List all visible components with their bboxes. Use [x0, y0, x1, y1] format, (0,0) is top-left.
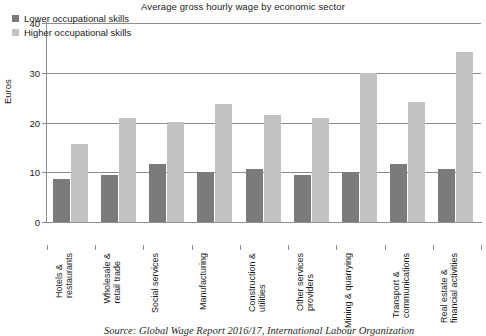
bar: [119, 118, 136, 222]
x-tick-mark: [385, 245, 386, 250]
x-tick-mark: [47, 245, 48, 250]
legend-label-lower: Lower occupational skills: [24, 13, 129, 24]
bar: [390, 164, 407, 222]
x-tick-label: Other servicesproviders: [295, 253, 315, 311]
x-tick-mark: [288, 245, 289, 250]
x-axis-line: [46, 222, 482, 223]
bar: [167, 122, 184, 222]
x-tick-mark: [192, 245, 193, 250]
x-tick-mark: [240, 245, 241, 250]
bar: [53, 179, 70, 222]
bar: [294, 175, 311, 222]
chart-figure: Average gross hourly wage by economic se…: [0, 0, 486, 336]
gridline: [47, 73, 481, 74]
bar: [71, 144, 88, 222]
bar: [149, 164, 166, 222]
bar: [197, 172, 214, 222]
x-tick-label: Real estate &financial activities: [439, 253, 459, 323]
bar: [264, 115, 281, 222]
x-tick-mark: [95, 245, 96, 250]
y-tick-mark: [42, 123, 46, 124]
x-tick-mark: [336, 245, 337, 250]
bar: [438, 169, 455, 222]
bar: [312, 118, 329, 222]
bar: [456, 52, 473, 222]
x-tick-mark: [481, 245, 482, 250]
source-caption: Source: Global Wage Report 2016/17, Inte…: [104, 325, 414, 336]
x-tick-label: Manufacturing: [198, 253, 208, 310]
plot-area: 010203040Hotels &restaurantsWholesale &r…: [47, 23, 481, 222]
bar: [246, 169, 263, 222]
x-tick-label: Mining & quarrying: [343, 253, 353, 328]
bar: [360, 73, 377, 222]
x-tick-label: Social services: [150, 253, 160, 313]
bar: [342, 172, 359, 222]
y-tick-label: 20: [29, 117, 40, 128]
legend-label-higher: Higher occupational skills: [24, 27, 131, 38]
legend-swatch-lower: [12, 15, 19, 22]
x-tick-mark: [433, 245, 434, 250]
y-axis-label: Euros: [2, 79, 13, 104]
y-tick-mark: [42, 172, 46, 173]
y-tick-mark: [42, 222, 46, 223]
x-tick-mark: [143, 245, 144, 250]
y-tick-label: 30: [29, 67, 40, 78]
x-tick-label: Transport &communications: [391, 253, 411, 318]
y-tick-label: 10: [29, 167, 40, 178]
bar: [408, 102, 425, 222]
y-tick-label: 0: [35, 217, 40, 228]
x-tick-label: Construction &utilities: [247, 253, 267, 312]
legend-swatch-higher: [12, 29, 19, 36]
bar: [215, 104, 232, 222]
chart-legend: Lower occupational skills Higher occupat…: [12, 11, 131, 39]
legend-item-higher: Higher occupational skills: [12, 25, 131, 39]
legend-item-lower: Lower occupational skills: [12, 11, 131, 25]
x-tick-label: Hotels &restaurants: [54, 253, 74, 298]
bar: [101, 175, 118, 222]
x-tick-label: Wholesale &retail trade: [102, 253, 122, 304]
y-tick-mark: [42, 73, 46, 74]
